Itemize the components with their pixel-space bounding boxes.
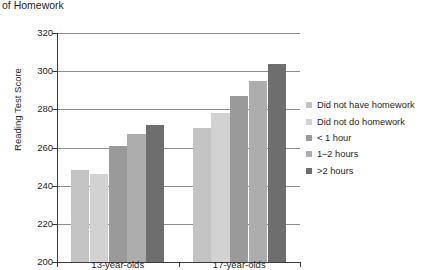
x-axis-group-divider	[300, 262, 301, 267]
legend: Did not have homeworkDid not do homework…	[306, 97, 430, 179]
legend-swatch	[306, 168, 312, 174]
bar	[71, 170, 89, 262]
y-axis-tick-label: 240	[19, 180, 53, 191]
bar	[146, 125, 164, 262]
legend-label: < 1 hour	[317, 133, 351, 143]
legend-swatch	[306, 151, 312, 157]
bar	[90, 174, 108, 262]
bar	[268, 64, 286, 262]
bar	[230, 96, 248, 262]
y-axis-tick-labels: 200220240260280300320	[15, 33, 53, 262]
legend-label: >2 hours	[317, 166, 353, 176]
legend-swatch	[306, 135, 312, 141]
y-axis-tick-label: 320	[19, 27, 53, 38]
legend-item: Did not have homework	[306, 97, 430, 113]
legend-swatch	[306, 102, 312, 108]
bar	[193, 128, 211, 262]
bar	[249, 81, 267, 262]
gridline	[57, 33, 300, 34]
chart-title: of Homework	[2, 0, 64, 12]
legend-item: >2 hours	[306, 163, 430, 179]
y-axis-tick-label: 280	[19, 103, 53, 114]
x-axis-category-label: 17-year-olds	[179, 259, 301, 270]
y-axis-tick-label: 300	[19, 65, 53, 76]
y-axis-tick-label: 220	[19, 218, 53, 229]
legend-label: Did not do homework	[317, 117, 405, 127]
y-axis-line	[57, 33, 58, 263]
y-axis-tick-label: 260	[19, 142, 53, 153]
legend-label: Did not have homework	[317, 100, 415, 110]
legend-swatch	[306, 119, 312, 125]
legend-item: 1–2 hours	[306, 146, 430, 162]
legend-label: 1–2 hours	[317, 149, 358, 159]
bar	[127, 134, 145, 262]
bar	[211, 113, 229, 262]
plot-area	[57, 33, 300, 262]
x-axis-category-label: 13-year-olds	[57, 259, 179, 270]
legend-item: < 1 hour	[306, 130, 430, 146]
legend-item: Did not do homework	[306, 113, 430, 129]
bar	[109, 146, 127, 262]
gridline	[57, 71, 300, 72]
y-axis-tick-label: 200	[19, 256, 53, 267]
